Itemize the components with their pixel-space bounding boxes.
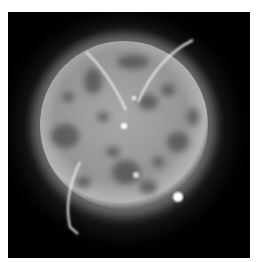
image-frame bbox=[8, 12, 250, 258]
sphere-image bbox=[8, 12, 250, 258]
